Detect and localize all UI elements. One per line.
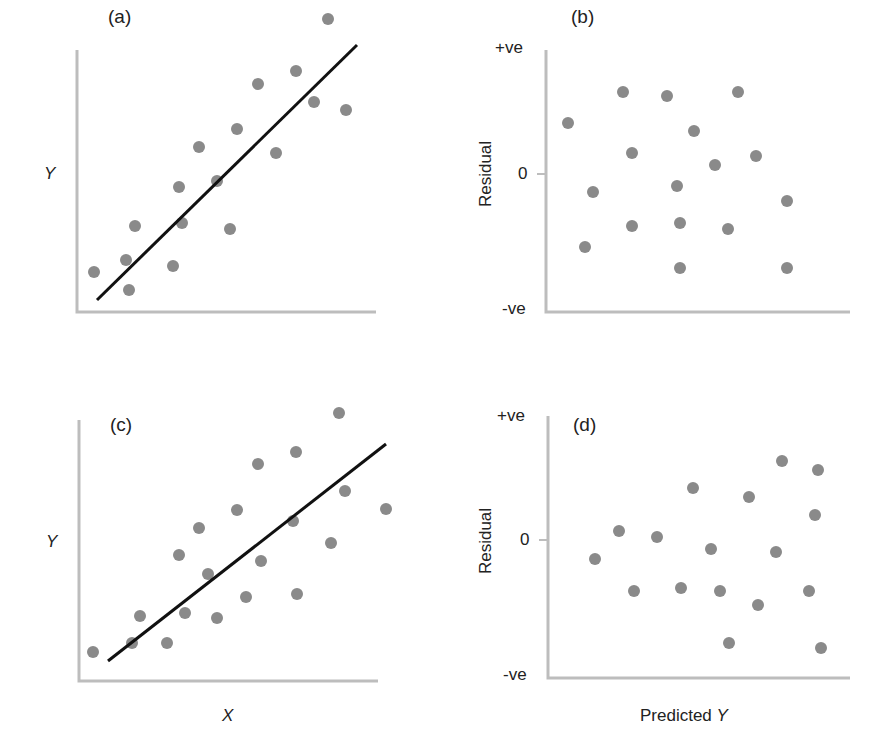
data-point	[743, 491, 755, 503]
panel-c-label: (c)	[110, 414, 132, 436]
panel-d-xlabel: Predicted Y	[640, 706, 728, 726]
panel-c-plot	[79, 407, 392, 681]
data-point	[231, 123, 243, 135]
panel-b-ytick-top: +ve	[495, 38, 523, 58]
panel-d-ylabel: Residual	[476, 501, 496, 581]
axes	[548, 416, 850, 678]
panel-b-ytick-bottom: -ve	[502, 299, 526, 319]
data-point	[776, 455, 788, 467]
data-point	[240, 591, 252, 603]
data-point	[613, 525, 625, 537]
data-point	[134, 610, 146, 622]
data-point	[812, 464, 824, 476]
panel-b-ylabel: Residual	[476, 134, 496, 214]
data-point	[290, 65, 302, 77]
data-point	[88, 266, 100, 278]
panel-b-label: (b)	[571, 6, 594, 28]
data-point	[290, 446, 302, 458]
axes	[79, 420, 378, 681]
figure-canvas	[0, 0, 888, 750]
data-point	[674, 262, 686, 274]
regression-line	[108, 444, 386, 661]
data-point	[675, 582, 687, 594]
data-point	[231, 504, 243, 516]
data-point	[781, 262, 793, 274]
panel-c-xlabel: X	[222, 706, 233, 726]
data-point	[589, 553, 601, 565]
data-point	[579, 241, 591, 253]
data-point	[193, 141, 205, 153]
panel-a-ylabel: Y	[44, 164, 55, 184]
panel-d-label: (d)	[573, 414, 596, 436]
data-point	[224, 223, 236, 235]
data-point	[179, 607, 191, 619]
data-point	[750, 150, 762, 162]
data-point	[671, 180, 683, 192]
data-point	[161, 637, 173, 649]
axes	[77, 50, 376, 312]
data-point	[815, 642, 827, 654]
data-point	[687, 482, 699, 494]
data-point	[705, 543, 717, 555]
data-point	[626, 147, 638, 159]
data-point	[626, 220, 638, 232]
data-point	[325, 537, 337, 549]
data-point	[255, 555, 267, 567]
panel-d-ytick-zero: 0	[520, 530, 529, 550]
data-point	[380, 503, 392, 515]
data-point	[291, 588, 303, 600]
data-point	[333, 407, 345, 419]
data-point	[587, 186, 599, 198]
data-point	[339, 485, 351, 497]
panel-d-plot	[539, 416, 850, 678]
data-point	[173, 181, 185, 193]
data-point	[252, 458, 264, 470]
data-point	[211, 612, 223, 624]
data-point	[123, 284, 135, 296]
panel-b-ytick-zero: 0	[518, 164, 527, 184]
data-point	[617, 86, 629, 98]
regression-line	[97, 45, 357, 300]
panel-a-plot	[77, 13, 376, 312]
data-point	[723, 637, 735, 649]
data-point	[628, 585, 640, 597]
data-point	[752, 599, 764, 611]
panel-c-ylabel: Y	[46, 532, 57, 552]
data-point	[770, 546, 782, 558]
panel-d-xlabel-text: Predicted Y	[640, 706, 728, 725]
data-point	[732, 86, 744, 98]
data-point	[340, 104, 352, 116]
data-point	[562, 117, 574, 129]
data-point	[803, 585, 815, 597]
panel-d-ytick-top: +ve	[497, 406, 525, 426]
data-point	[87, 646, 99, 658]
panel-b-plot	[537, 50, 850, 312]
data-point	[167, 260, 179, 272]
data-point	[322, 13, 334, 25]
data-point	[722, 223, 734, 235]
data-point	[173, 549, 185, 561]
data-point	[661, 90, 673, 102]
data-point	[781, 195, 793, 207]
data-point	[193, 522, 205, 534]
data-point	[714, 585, 726, 597]
data-point	[308, 96, 320, 108]
data-point	[674, 217, 686, 229]
data-point	[252, 78, 264, 90]
panel-a-label: (a)	[108, 6, 131, 28]
axes	[546, 50, 850, 312]
data-point	[120, 254, 132, 266]
data-point	[651, 531, 663, 543]
panel-d-ytick-bottom: -ve	[503, 665, 527, 685]
data-point	[270, 147, 282, 159]
data-point	[809, 509, 821, 521]
data-point	[688, 125, 700, 137]
data-point	[709, 159, 721, 171]
data-point	[129, 220, 141, 232]
